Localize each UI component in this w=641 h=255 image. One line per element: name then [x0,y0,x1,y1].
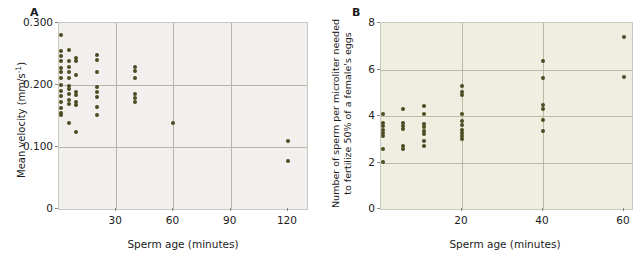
data-point [95,58,99,62]
panel-b: B 02468 204060 Number of sperm per micro… [320,0,641,255]
y-tick-mark [377,22,380,23]
data-point [401,147,405,151]
data-point [133,69,137,73]
panel-a-x-axis-label: Sperm age (minutes) [127,238,238,250]
data-point [67,65,71,69]
data-point [133,76,137,80]
data-point [95,53,99,57]
data-point [422,132,426,136]
y-tick-mark [377,115,380,116]
data-point [541,76,545,80]
panel-a-y-axis-label: Mean velocity (mm/s-1) [14,62,27,178]
data-point [95,70,99,74]
x-tick-mark [623,208,624,211]
x-tick-label: 120 [277,214,297,226]
data-point [74,59,78,63]
data-point [67,70,71,74]
y-tick-label: 4 [368,109,375,121]
data-point [59,49,63,53]
data-point [460,93,464,97]
data-point [95,85,99,89]
data-point [59,89,63,93]
data-point [541,59,545,63]
y-tick-label: 8 [368,16,375,28]
figure-scatter-plots: A 00.1000.2000.300 306090120 Mean veloci… [0,0,641,255]
gridline-vertical [173,23,174,209]
data-point [59,54,63,58]
data-point [74,130,78,134]
data-point [74,103,78,107]
data-point [67,59,71,63]
data-point [460,123,464,127]
data-point [422,144,426,148]
data-point [381,147,385,151]
data-point [59,83,63,87]
gridline-horizontal [381,70,632,71]
data-point [67,102,71,106]
data-point [67,48,71,52]
panel-b-y-axis-label: Number of sperm per microliter needed to… [330,19,354,208]
y-tick-label: 0.200 [23,78,53,90]
gridline-vertical [231,23,232,209]
y-tick-mark [55,208,58,209]
x-tick-label: 40 [535,214,548,226]
panel-a-y-axis-label-tail: ) [16,62,27,66]
panel-a: A 00.1000.2000.300 306090120 Mean veloci… [0,0,320,255]
data-point [171,121,175,125]
gridline-horizontal [59,147,307,148]
data-point [59,76,63,80]
data-point [422,104,426,108]
y-tick-mark [55,22,58,23]
data-point [95,113,99,117]
gridline-vertical [462,23,463,209]
x-tick-label: 60 [616,214,629,226]
y-tick-mark [55,84,58,85]
panel-a-y-axis-label-main: Mean velocity (mm/s [16,73,27,178]
data-point [401,107,405,111]
data-point [59,70,63,74]
data-point [286,159,290,163]
data-point [74,73,78,77]
x-tick-mark [230,208,231,211]
gridline-vertical [116,23,117,209]
data-point [541,107,545,111]
x-tick-label: 20 [454,214,467,226]
panel-b-y-axis-label-line2: to fertilize 50% of a female's eggs [342,19,354,208]
x-tick-mark [287,208,288,211]
data-point [460,137,464,141]
panel-b-letter: B [352,6,361,19]
y-tick-mark [377,162,380,163]
data-point [401,127,405,131]
data-point [59,59,63,63]
data-point [59,33,63,37]
y-tick-label: 0 [368,202,375,214]
data-point [95,90,99,94]
data-point [622,75,626,79]
data-point [541,118,545,122]
x-tick-mark [115,208,116,211]
data-point [74,93,78,97]
panel-a-y-axis-label-exponent: -1 [14,66,23,73]
data-point [59,94,63,98]
data-point [460,84,464,88]
y-tick-label: 6 [368,63,375,75]
x-tick-mark [542,208,543,211]
data-point [422,112,426,116]
data-point [381,134,385,138]
x-tick-label: 30 [109,214,122,226]
panel-a-plot-area [58,22,308,210]
data-point [67,76,71,80]
panel-b-x-axis-label: Sperm age (minutes) [449,238,560,250]
x-tick-mark [461,208,462,211]
data-point [422,139,426,143]
data-point [286,139,290,143]
panel-b-plot-area [380,22,633,210]
y-tick-mark [377,69,380,70]
data-point [541,129,545,133]
y-tick-mark [55,146,58,147]
x-tick-label: 90 [223,214,236,226]
gridline-vertical [543,23,544,209]
data-point [67,92,71,96]
data-point [133,100,137,104]
panel-b-y-axis-label-line1: Number of sperm per microliter needed [330,19,342,208]
